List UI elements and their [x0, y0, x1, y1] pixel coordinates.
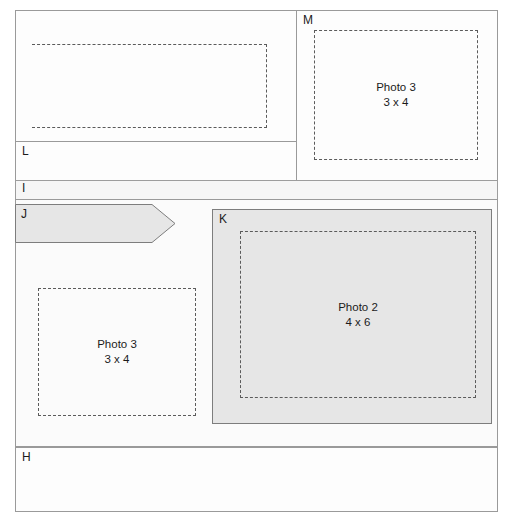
region-top-left[interactable] — [15, 10, 297, 142]
photo-name: Photo 2 — [338, 300, 378, 315]
photo-name: Photo 3 — [97, 337, 137, 352]
arrow-right-icon — [15, 204, 176, 243]
region-label-l: L — [22, 145, 29, 158]
region-i[interactable]: I — [15, 180, 498, 200]
region-label-m: M — [303, 14, 313, 27]
region-label-j: J — [21, 208, 27, 221]
region-l[interactable]: L — [15, 141, 297, 181]
region-label-i: I — [22, 182, 26, 195]
region-label-h: H — [22, 451, 31, 464]
photo-size: 3 x 4 — [105, 352, 130, 367]
region-label-k: K — [219, 213, 227, 226]
placeholder-photo-m[interactable]: Photo 3 3 x 4 — [314, 30, 478, 160]
region-h[interactable]: H — [15, 447, 498, 512]
placeholder-top-left[interactable] — [32, 44, 267, 128]
region-j-arrow[interactable]: J — [15, 204, 176, 243]
layout-diagram-canvas: L M Photo 3 3 x 4 I Photo 3 3 x 4 K Phot… — [0, 0, 515, 522]
photo-size: 3 x 4 — [384, 95, 409, 110]
photo-size: 4 x 6 — [346, 315, 371, 330]
placeholder-photo-lower-left[interactable]: Photo 3 3 x 4 — [38, 288, 196, 416]
placeholder-photo-k[interactable]: Photo 2 4 x 6 — [240, 231, 476, 398]
photo-name: Photo 3 — [376, 80, 416, 95]
